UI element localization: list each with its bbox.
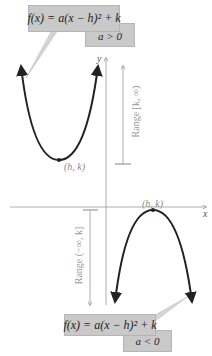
upper-vertex-point bbox=[57, 158, 61, 162]
lower-equation-box: f(x) = a(x − h)² + k bbox=[64, 314, 156, 336]
lower-range-label: Range (−∞, k] bbox=[73, 219, 84, 293]
lower-condition: a < 0 bbox=[136, 335, 160, 347]
lower-vertex-label: (h, k) bbox=[142, 198, 163, 209]
upper-parabola-left-arm bbox=[21, 66, 59, 160]
upper-equation-box: f(x) = a(x − h)² + k bbox=[28, 5, 120, 32]
x-axis-label: x bbox=[203, 208, 207, 219]
lower-parabola-left-arm bbox=[115, 210, 153, 302]
upper-callout-pointer bbox=[26, 30, 58, 78]
upper-parabola-right-arm bbox=[59, 66, 98, 160]
upper-equation: f(x) = a(x − h)² + k bbox=[27, 11, 120, 26]
upper-range-label: Range [k, ∞) bbox=[130, 77, 141, 147]
upper-vertex-label: (h, k) bbox=[64, 161, 85, 172]
lower-equation: f(x) = a(x − h)² + k bbox=[63, 318, 156, 333]
lower-parabola-right-arm bbox=[153, 210, 192, 302]
diagram-canvas bbox=[0, 0, 212, 356]
y-axis-label: y bbox=[97, 53, 101, 64]
